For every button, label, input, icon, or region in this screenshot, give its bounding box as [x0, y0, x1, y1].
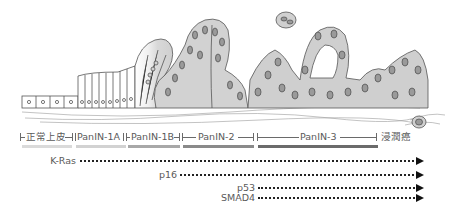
stage-label-invasive: 浸潤癌 — [381, 131, 411, 143]
p53-arrow-line — [258, 187, 418, 189]
stage-line — [182, 137, 196, 138]
invasive-cell — [412, 116, 426, 128]
stage-divider — [376, 133, 377, 141]
p16-arrow-line — [180, 174, 418, 176]
normal-epithelium — [22, 96, 78, 108]
tissue-illustration — [0, 0, 455, 130]
arrow-head-icon — [416, 171, 424, 179]
arrow-head-icon — [416, 157, 424, 165]
stage-bar-normal — [22, 145, 72, 148]
panin-3-epithelium — [248, 12, 428, 108]
stage-bar-panin-2 — [183, 145, 254, 148]
stage-bar-panin-3 — [258, 145, 378, 148]
stage-label-normal: 正常上皮 — [26, 131, 66, 143]
stage-divider — [179, 133, 180, 141]
gene-label-smad4: SMAD4 — [200, 192, 255, 203]
stroma-lines — [22, 107, 445, 125]
stage-line — [126, 137, 130, 138]
stage-line — [65, 137, 72, 138]
stage-divider — [72, 133, 73, 141]
stage-label-panin-3: PanIN-3 — [300, 131, 337, 143]
stage-line — [340, 137, 376, 138]
arrow-head-icon — [416, 184, 424, 192]
panin-1a-epithelium — [78, 66, 135, 108]
stage-line — [20, 137, 25, 138]
stage-label-panin-1a: PanIN-1A — [77, 131, 120, 143]
stage-label-panin-1b: PanIN-1B — [131, 131, 174, 143]
stage-divider — [123, 133, 124, 141]
stage-divider — [253, 133, 254, 141]
stage-divider — [75, 133, 76, 141]
kras-arrow-line — [80, 160, 418, 162]
stage-bar-panin-1b — [128, 145, 180, 148]
smad4-arrow-line — [258, 197, 418, 199]
gene-label-kras: K-Ras — [20, 155, 76, 166]
stage-line — [238, 137, 253, 138]
stage-timeline: 正常上皮 PanIN-1A PanIN-1B PanIN-2 PanIN-3 浸… — [0, 131, 455, 143]
stage-line — [257, 137, 299, 138]
stage-bar-panin-1a — [76, 145, 126, 148]
gene-label-p16: p16 — [130, 169, 177, 180]
stage-label-panin-2: PanIN-2 — [198, 131, 235, 143]
arrow-head-icon — [416, 194, 424, 202]
